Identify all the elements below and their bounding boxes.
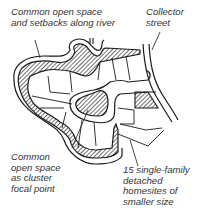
label-line: homesites of: [123, 185, 177, 196]
label-focal-open-space: Common open space as cluster focal point: [11, 152, 61, 194]
label-line: focal point: [11, 183, 55, 194]
leader-focal: [72, 110, 88, 148]
label-line: smaller size: [123, 196, 174, 207]
label-homesites: 15 single-family detached homesites of s…: [123, 165, 190, 207]
label-line: detached: [123, 175, 162, 186]
label-line: 15 single-family: [123, 164, 190, 175]
label-line: Common open space: [11, 6, 102, 17]
label-line: and setbacks along river: [11, 17, 115, 28]
leader-homes: [130, 140, 138, 166]
label-line: street: [146, 17, 170, 28]
label-line: Common: [11, 151, 50, 162]
label-line: as cluster: [11, 172, 52, 183]
river-tributary: [90, 38, 93, 44]
focal-open-space: [76, 91, 108, 116]
leader-street: [152, 32, 160, 50]
leader-river: [35, 40, 40, 58]
collector-street: [143, 44, 178, 122]
label-line: Collector: [146, 6, 184, 17]
label-line: open space: [11, 162, 61, 173]
label-collector-street: Collector street: [146, 7, 184, 28]
label-river-open-space: Common open space and setbacks along riv…: [11, 7, 115, 28]
